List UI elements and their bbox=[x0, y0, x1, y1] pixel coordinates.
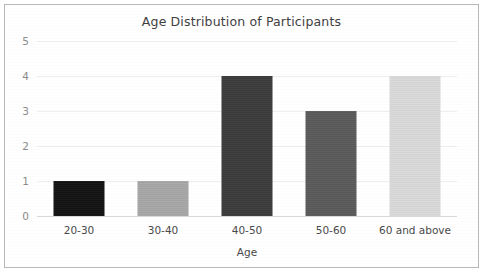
bar-texture bbox=[390, 76, 441, 216]
y-axis-tick-label: 0 bbox=[22, 210, 29, 222]
bar-slot: 40-50 bbox=[205, 41, 289, 216]
axis-baseline bbox=[37, 216, 457, 217]
x-axis-tick-label: 20-30 bbox=[64, 224, 95, 236]
bar[interactable] bbox=[222, 76, 273, 216]
x-axis-title: Age bbox=[37, 246, 457, 258]
bar[interactable] bbox=[54, 181, 105, 216]
bar-slot: 30-40 bbox=[121, 41, 205, 216]
x-axis-tick-label: 60 and above bbox=[379, 224, 451, 236]
y-axis-tick-label: 5 bbox=[22, 35, 29, 47]
y-axis-tick-label: 4 bbox=[22, 70, 29, 82]
bar-texture bbox=[222, 76, 273, 216]
chart-container: Age Distribution of Participants 012345 … bbox=[4, 4, 479, 268]
bar-texture bbox=[54, 181, 105, 216]
bar-slot: 50-60 bbox=[289, 41, 373, 216]
y-axis-tick-label: 1 bbox=[22, 175, 29, 187]
bar[interactable] bbox=[306, 111, 357, 216]
bar-slot: 20-30 bbox=[37, 41, 121, 216]
bar-slot: 60 and above bbox=[373, 41, 457, 216]
plot-area: 012345 20-3030-4040-5050-6060 and above bbox=[37, 41, 457, 216]
x-axis-tick-label: 50-60 bbox=[316, 224, 347, 236]
bar-texture bbox=[138, 181, 189, 216]
bar[interactable] bbox=[390, 76, 441, 216]
chart-title: Age Distribution of Participants bbox=[5, 14, 478, 29]
bar[interactable] bbox=[138, 181, 189, 216]
y-axis-tick-label: 2 bbox=[22, 140, 29, 152]
y-axis-tick-label: 3 bbox=[22, 105, 29, 117]
bar-texture bbox=[306, 111, 357, 216]
x-axis-tick-label: 30-40 bbox=[148, 224, 179, 236]
bars-layer: 20-3030-4040-5050-6060 and above bbox=[37, 41, 457, 216]
x-axis-tick-label: 40-50 bbox=[232, 224, 263, 236]
